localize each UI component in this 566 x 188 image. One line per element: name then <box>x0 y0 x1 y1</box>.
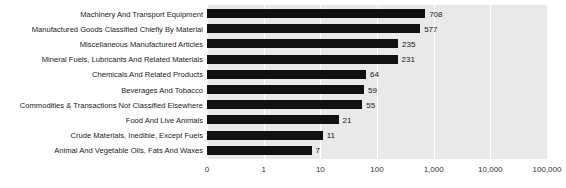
category-label: Miscellaneous Manufactured Articles <box>0 40 203 49</box>
x-tick-label: 1,000 <box>404 165 464 175</box>
bar-value-label: 21 <box>343 116 352 125</box>
x-tick-label: 0 <box>177 165 237 175</box>
bar <box>207 131 323 140</box>
bar <box>207 39 398 48</box>
x-tick-label: 100,000 <box>517 165 566 175</box>
category-label: Commodities & Transactions Not Classifie… <box>0 101 203 110</box>
bar <box>207 9 425 18</box>
bar <box>207 70 366 79</box>
bar-value-label: 235 <box>402 40 415 49</box>
bar <box>207 55 398 64</box>
x-gridline <box>547 5 548 159</box>
bar-value-label: 708 <box>429 10 442 19</box>
bar <box>207 85 364 94</box>
category-label: Mineral Fuels, Lubricants And Related Ma… <box>0 55 203 64</box>
category-label: Beverages And Tobacco <box>0 86 203 95</box>
bar-value-label: 55 <box>366 101 375 110</box>
bar <box>207 100 362 109</box>
x-tick-label: 10 <box>290 165 350 175</box>
category-label: Crude Materials, Inedible, Except Fuels <box>0 131 203 140</box>
bar-value-label: 64 <box>370 70 379 79</box>
bar-value-label: 11 <box>327 131 335 140</box>
category-label: Manufactured Goods Classified Chiefly By… <box>0 25 203 34</box>
category-label: Machinery And Transport Equipment <box>0 10 203 19</box>
category-label: Chemicals And Related Products <box>0 70 203 79</box>
bar <box>207 115 339 124</box>
bar-value-label: 59 <box>368 86 377 95</box>
x-gridline <box>490 5 491 159</box>
bar-value-label: 577 <box>424 25 437 34</box>
x-tick-label: 1 <box>234 165 294 175</box>
bar-value-label: 231 <box>402 55 415 64</box>
x-tick-label: 100 <box>347 165 407 175</box>
category-label: Food And Live Animals <box>0 116 203 125</box>
category-label: Animal And Vegetable Oils, Fats And Waxe… <box>0 146 203 155</box>
bar <box>207 146 312 155</box>
x-tick-label: 10,000 <box>460 165 520 175</box>
bar <box>207 24 420 33</box>
bar-value-label: 7 <box>316 146 320 155</box>
